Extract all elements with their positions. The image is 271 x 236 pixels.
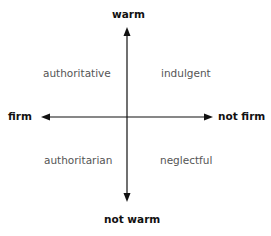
arrow-down-icon <box>124 193 131 202</box>
arrow-left-icon <box>41 114 50 121</box>
axis-label-not-firm: not firm <box>218 110 265 122</box>
quadrant-indulgent: indulgent <box>161 67 211 79</box>
vertical-axis <box>124 27 131 202</box>
axis-label-warm: warm <box>112 8 145 20</box>
quadrant-neglectful: neglectful <box>160 154 212 166</box>
arrow-up-icon <box>124 27 131 36</box>
axis-label-not-warm: not warm <box>104 213 160 225</box>
quadrant-authoritarian: authoritarian <box>44 154 112 166</box>
axis-label-firm: firm <box>8 110 32 122</box>
quadrant-authoritative: authoritative <box>43 67 111 79</box>
arrow-right-icon <box>204 114 213 121</box>
